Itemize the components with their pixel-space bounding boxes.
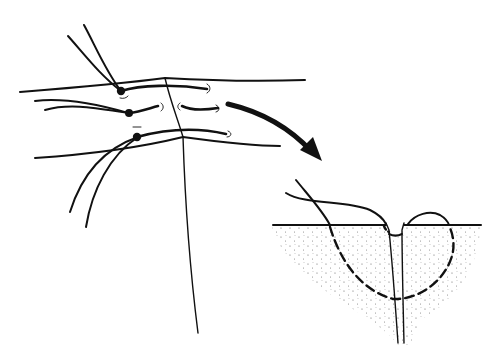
stitch-2 <box>35 100 219 117</box>
cross-section-panel <box>272 180 481 345</box>
skin-edge-lower <box>35 137 280 158</box>
stitch-1 <box>68 25 210 98</box>
top-view-panel <box>20 25 305 333</box>
suture-diagram <box>0 0 503 355</box>
incision-line <box>165 78 198 333</box>
suture-tail <box>286 193 386 224</box>
stitch-3 <box>70 127 231 227</box>
tissue-stipple <box>272 227 480 345</box>
transition-arrow <box>228 104 322 161</box>
suture-knot-bump <box>408 213 449 225</box>
